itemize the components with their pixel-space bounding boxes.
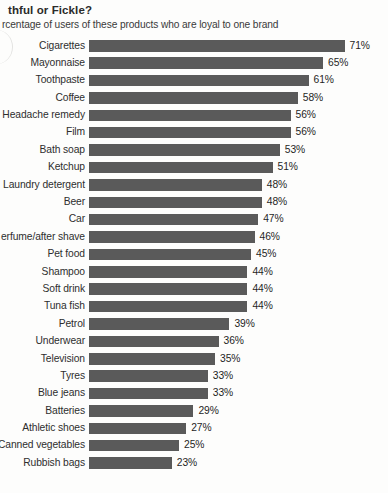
bar-row: Car47% [0, 212, 388, 229]
bar-row: Tuna fish44% [0, 299, 388, 316]
bar-row: Ketchup51% [0, 160, 388, 177]
bar-category-label: Tuna fish [44, 299, 85, 312]
bar-fill [89, 127, 291, 139]
bar-category-label: Headache remedy [2, 108, 85, 121]
bar-category-label: Rubbish bags [23, 456, 85, 469]
bar [89, 283, 247, 295]
bar-fill [89, 231, 255, 243]
bar-row: Athletic shoes27% [0, 421, 388, 438]
bar-row: Soft drink44% [0, 281, 388, 298]
bar [89, 162, 273, 174]
bar-fill [89, 57, 323, 69]
bar-category-label: Mayonnaise [30, 56, 85, 69]
bar-fill [89, 318, 229, 330]
bar-value-label: 45% [256, 247, 276, 260]
bar-fill [89, 336, 219, 348]
bar-fill [89, 214, 258, 226]
bar-value-label: 48% [267, 178, 287, 191]
chart-subtitle: rcentage of users of these products who … [2, 19, 278, 30]
bar-fill [89, 110, 291, 122]
bar-chart-plot-area: Cigarettes71%Mayonnaise65%Toothpaste61%C… [0, 38, 388, 473]
bar-category-label: Underwear [36, 334, 85, 347]
bar-fill [89, 179, 262, 191]
bar [89, 231, 255, 243]
bar [89, 353, 215, 365]
bar-row: Toothpaste61% [0, 73, 388, 90]
bar-category-label: erfume/after shave [1, 230, 85, 243]
bar-fill [89, 457, 172, 469]
bar-row: erfume/after shave46% [0, 229, 388, 246]
bar-category-label: Shampoo [42, 265, 85, 278]
bar-fill [89, 370, 208, 382]
bar [89, 457, 172, 469]
bar-value-label: 53% [285, 143, 305, 156]
bar-category-label: Toothpaste [36, 73, 85, 86]
bar [89, 40, 345, 52]
bar [89, 370, 208, 382]
bar [89, 179, 262, 191]
bar-value-label: 51% [278, 160, 298, 173]
bar-category-label: Athletic shoes [22, 421, 85, 434]
bar-value-label: 44% [252, 282, 272, 295]
bar-row: Blue jeans33% [0, 386, 388, 403]
bar-value-label: 47% [263, 212, 283, 225]
bar-fill [89, 266, 247, 278]
bar-row: Batteries29% [0, 403, 388, 420]
chart-page: thful or Fickle? rcentage of users of th… [0, 0, 388, 493]
bar-category-label: Canned vegetables [0, 438, 85, 451]
bar [89, 92, 298, 104]
bar-row: Pet food45% [0, 247, 388, 264]
bar-value-label: 71% [350, 39, 370, 52]
bar-row: Television35% [0, 351, 388, 368]
bar-category-label: Coffee [55, 91, 85, 104]
bar-category-label: Tyres [60, 369, 85, 382]
bar [89, 266, 247, 278]
bar-value-label: 56% [296, 108, 316, 121]
bar-category-label: Batteries [45, 404, 85, 417]
bar-value-label: 65% [328, 56, 348, 69]
bar [89, 336, 219, 348]
bar-value-label: 25% [184, 438, 204, 451]
bar-fill [89, 440, 179, 452]
bar-value-label: 33% [213, 369, 233, 382]
bar-value-label: 56% [296, 125, 316, 138]
bar-value-label: 44% [252, 265, 272, 278]
bar-category-label: Television [41, 352, 85, 365]
bar [89, 318, 229, 330]
bar-category-label: Ketchup [48, 160, 85, 173]
bar-fill [89, 388, 208, 400]
bar-value-label: 61% [314, 73, 334, 86]
bar-fill [89, 249, 251, 261]
bar-fill [89, 75, 309, 87]
bar-row: Rubbish bags23% [0, 455, 388, 472]
bar-row: Coffee58% [0, 90, 388, 107]
bar-value-label: 35% [220, 352, 240, 365]
bar-row: Film56% [0, 125, 388, 142]
bar-fill [89, 40, 345, 52]
bar [89, 249, 251, 261]
bar-row: Underwear36% [0, 334, 388, 351]
bar-row: Cigarettes71% [0, 38, 388, 55]
bar [89, 388, 208, 400]
bar-category-label: Laundry detergent [3, 178, 85, 191]
bar-row: Canned vegetables25% [0, 438, 388, 455]
bar-category-label: Beer [64, 195, 85, 208]
bar [89, 127, 291, 139]
bar-row: Mayonnaise65% [0, 55, 388, 72]
bar-fill [89, 301, 247, 313]
bar-value-label: 58% [303, 91, 323, 104]
bar-fill [89, 162, 273, 174]
bar [89, 197, 262, 209]
bar-value-label: 39% [234, 317, 254, 330]
bar [89, 301, 247, 313]
bar-fill [89, 405, 193, 417]
bar [89, 110, 291, 122]
bar-fill [89, 283, 247, 295]
bar [89, 75, 309, 87]
bar-fill [89, 353, 215, 365]
bar [89, 144, 280, 156]
bar [89, 214, 258, 226]
bar-value-label: 33% [213, 386, 233, 399]
bar-category-label: Car [69, 212, 85, 225]
page-title: thful or Fickle? [8, 4, 92, 16]
